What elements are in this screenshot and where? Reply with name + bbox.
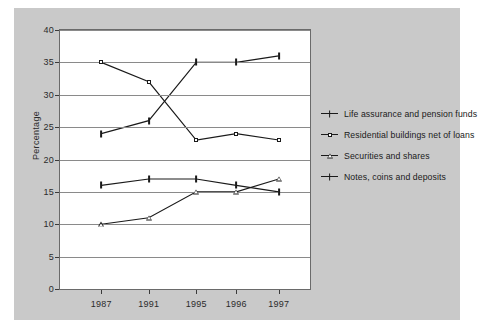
open-square-marker [277,138,281,142]
legend-label: Securities and shares [344,151,430,161]
data-point [276,176,282,181]
open-triangle-marker [98,222,104,227]
cross-dash-marker [329,173,331,180]
legend-marker-sample [321,109,338,119]
y-axis-tick-label: 0 [32,284,54,294]
data-point [278,52,280,59]
gridline [60,257,310,258]
gridline [60,160,310,161]
legend-item[interactable]: Residential buildings net of loans [321,124,471,145]
y-axis-tick-label: 30 [32,90,54,100]
data-point [235,59,237,66]
x-axis-tick-label: 1995 [186,299,207,309]
data-point [100,182,102,189]
gridline [60,95,310,96]
data-point [99,60,103,64]
cross-dash-marker [148,175,150,182]
gridline [60,127,310,128]
x-axis-tick-label: 1987 [91,299,112,309]
y-axis-tick-label: 40 [32,25,54,35]
legend-item[interactable]: Securities and shares [321,145,471,166]
y-axis-tick-label: 25 [32,122,54,132]
data-point [235,182,237,189]
dash-marker [195,59,197,66]
open-triangle-marker [146,215,152,220]
legend-marker-sample [321,172,338,182]
x-axis-tick-label: 1996 [226,299,247,309]
open-triangle-marker [193,189,199,194]
legend-item[interactable]: Life assurance and pension funds [321,103,471,124]
legend-label: Notes, coins and deposits [344,172,446,182]
data-point [277,138,281,142]
data-point [234,132,238,136]
data-point [193,189,199,194]
series-line [101,62,279,140]
legend-item[interactable]: Notes, coins and deposits [321,166,471,187]
y-axis-tick-label: 10 [32,219,54,229]
data-point [98,222,104,227]
data-point [100,130,102,137]
data-point [195,175,197,182]
dash-marker [148,117,150,124]
gridline [60,62,310,63]
plot-area [59,29,311,290]
open-square-marker [234,132,238,136]
open-triangle-marker [327,153,333,158]
cross-dash-marker [195,175,197,182]
open-square-marker [328,133,332,137]
series-line [101,179,279,192]
legend-label: Life assurance and pension funds [344,109,477,119]
data-point [147,80,151,84]
dash-marker [278,52,280,59]
y-axis-label: Percentage [31,111,41,160]
x-axis-tick-label: 1997 [268,299,289,309]
data-point [146,215,152,220]
dash-marker [235,59,237,66]
open-square-marker [194,138,198,142]
y-axis-tick-label: 20 [32,155,54,165]
open-triangle-marker [233,189,239,194]
open-square-marker [99,60,103,64]
data-point [195,59,197,66]
series-line [101,179,279,224]
data-point [233,189,239,194]
figure-panel: Percentage 0510152025303540 198719911995… [14,8,460,320]
y-axis-tick-label: 35 [32,57,54,67]
open-square-marker [147,80,151,84]
data-point [194,138,198,142]
gridline [60,30,310,31]
legend-marker-sample [321,130,338,140]
open-triangle-marker [276,176,282,181]
dash-marker [329,110,331,117]
data-point [148,117,150,124]
gridline [60,192,310,193]
legend-label: Residential buildings net of loans [344,130,474,140]
legend-marker-sample [321,151,338,161]
data-point [148,175,150,182]
cross-dash-marker [100,182,102,189]
data-point [278,188,280,195]
cross-dash-marker [278,188,280,195]
legend: Life assurance and pension fundsResident… [321,103,471,187]
y-axis-tick-label: 15 [32,187,54,197]
y-axis-tick-label: 5 [32,252,54,262]
cross-dash-marker [235,182,237,189]
dash-marker [100,130,102,137]
x-axis-tick-label: 1991 [138,299,159,309]
